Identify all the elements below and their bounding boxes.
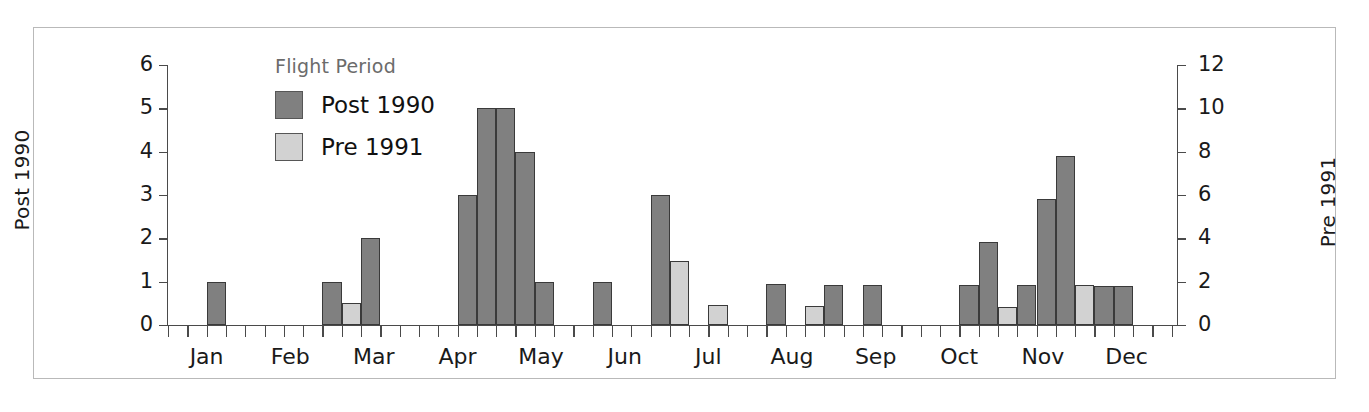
x-tick-mark (573, 326, 574, 337)
bar-post-1990 (458, 195, 477, 325)
right-axis-title: Pre 1991 (1316, 157, 1340, 248)
right-tick-label: 4 (1198, 227, 1244, 248)
left-tick-label: 3 (113, 184, 153, 205)
x-tick-mark (458, 326, 459, 337)
x-tick-mark (844, 326, 845, 337)
legend-entry[interactable]: Pre 1991 (275, 133, 505, 161)
x-tick-mark (708, 326, 709, 337)
x-tick-mark (400, 326, 401, 337)
right-tick-label: 10 (1198, 97, 1244, 118)
x-tick-mark (303, 326, 304, 337)
left-tick-mark (159, 195, 168, 196)
x-axis-baseline (167, 325, 1178, 326)
x-tick-mark (515, 326, 516, 337)
x-tick-mark (747, 326, 748, 337)
x-tick-mark (901, 326, 902, 337)
x-axis-month-label: Jan (162, 344, 252, 369)
left-tick-label: 1 (113, 271, 153, 292)
bar-post-1990 (863, 285, 882, 325)
x-tick-mark (361, 326, 362, 337)
bar-pre-1991 (805, 306, 824, 325)
x-tick-mark (1172, 326, 1173, 337)
x-tick-mark (168, 326, 169, 337)
x-tick-mark (380, 326, 381, 337)
x-tick-mark (245, 326, 246, 337)
right-tick-mark (1177, 282, 1186, 283)
x-tick-mark (1152, 326, 1153, 337)
x-tick-mark (1017, 326, 1018, 337)
x-tick-mark (728, 326, 729, 337)
x-tick-mark (631, 326, 632, 337)
bar-post-1990 (361, 238, 380, 325)
x-tick-mark (1075, 326, 1076, 337)
x-tick-mark (979, 326, 980, 337)
x-tick-mark (265, 326, 266, 337)
x-axis-month-label: Sep (831, 344, 921, 369)
x-axis-month-label: Mar (329, 344, 419, 369)
bar-post-1990 (651, 195, 670, 325)
x-tick-mark (322, 326, 323, 337)
x-tick-mark (670, 326, 671, 337)
x-tick-mark (438, 326, 439, 337)
x-tick-mark (1133, 326, 1134, 337)
x-axis-month-label: Feb (245, 344, 335, 369)
x-tick-mark (766, 326, 767, 337)
bar-pre-1991 (670, 261, 689, 325)
x-tick-mark (496, 326, 497, 337)
right-tick-mark (1177, 152, 1186, 153)
legend-entry[interactable]: Post 1990 (275, 91, 505, 119)
x-tick-mark (554, 326, 555, 337)
x-tick-mark (207, 326, 208, 337)
x-tick-mark (593, 326, 594, 337)
left-tick-mark (159, 152, 168, 153)
bar-post-1990 (593, 282, 612, 325)
right-tick-mark (1177, 108, 1186, 109)
x-tick-mark (419, 326, 420, 337)
right-tick-mark (1177, 325, 1186, 326)
bar-post-1990 (322, 282, 341, 325)
figure-canvas: Post 1990 Pre 1991 0123456 024681012 Jan… (0, 0, 1369, 412)
bar-pre-1991 (998, 307, 1017, 325)
x-tick-mark (651, 326, 652, 337)
left-tick-label: 4 (113, 141, 153, 162)
bar-post-1990 (1017, 285, 1036, 325)
left-tick-mark (159, 238, 168, 239)
x-tick-mark (1114, 326, 1115, 337)
x-tick-mark (1094, 326, 1095, 337)
bar-post-1990 (1114, 286, 1133, 325)
right-tick-label: 2 (1198, 271, 1244, 292)
legend-entry-label: Post 1990 (321, 92, 435, 118)
legend-swatch-icon (275, 91, 303, 119)
left-tick-mark (159, 325, 168, 326)
left-tick-mark (159, 108, 168, 109)
x-tick-mark (824, 326, 825, 337)
x-tick-mark (226, 326, 227, 337)
right-tick-label: 8 (1198, 141, 1244, 162)
x-tick-mark (1037, 326, 1038, 337)
x-axis-month-label: May (496, 344, 586, 369)
bar-post-1990 (1056, 156, 1075, 325)
bar-pre-1991 (342, 303, 361, 325)
x-tick-mark (689, 326, 690, 337)
bar-post-1990 (515, 152, 534, 325)
x-tick-mark (477, 326, 478, 337)
x-axis-month-label: Jun (580, 344, 670, 369)
legend-swatch-icon (275, 133, 303, 161)
x-axis-month-label: Apr (412, 344, 502, 369)
x-axis-month-label: Jul (663, 344, 753, 369)
bar-post-1990 (1037, 199, 1056, 325)
legend-title: Flight Period (275, 55, 505, 77)
legend: Flight Period Post 1990Pre 1991 (275, 55, 505, 175)
bar-pre-1991 (1075, 285, 1094, 325)
bar-post-1990 (207, 282, 226, 325)
left-tick-label: 2 (113, 227, 153, 248)
x-tick-mark (959, 326, 960, 337)
left-tick-mark (159, 65, 168, 66)
x-axis-month-label: Oct (914, 344, 1004, 369)
x-tick-mark (863, 326, 864, 337)
right-tick-mark (1177, 238, 1186, 239)
bar-post-1990 (1094, 286, 1113, 325)
x-tick-mark (342, 326, 343, 337)
bar-pre-1991 (708, 305, 727, 325)
x-axis-month-label: Aug (747, 344, 837, 369)
